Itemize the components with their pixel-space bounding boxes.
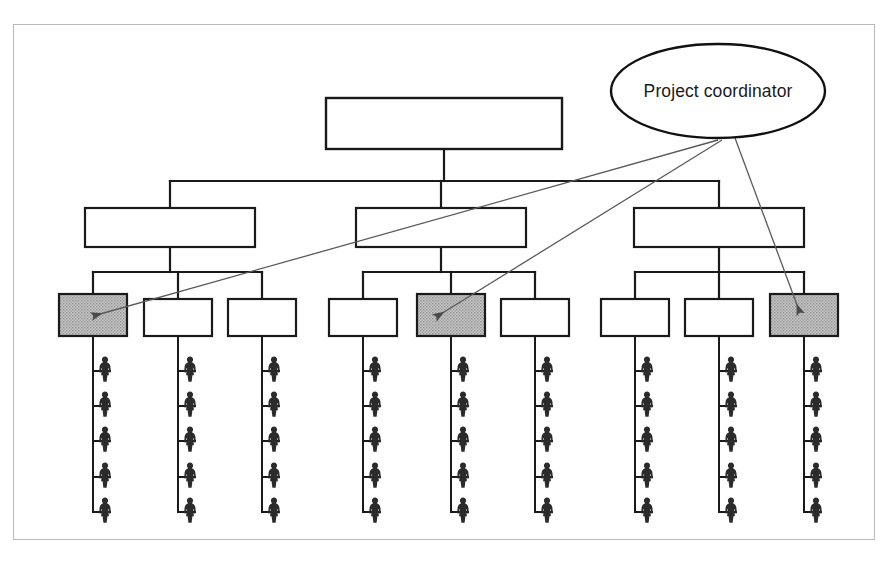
node-n3-2[interactable] bbox=[144, 299, 212, 336]
person-icon bbox=[641, 357, 653, 382]
person-icon bbox=[641, 392, 653, 417]
person-icon bbox=[268, 427, 280, 452]
node-n3-7[interactable] bbox=[601, 299, 669, 336]
person-icon bbox=[268, 463, 280, 488]
person-icon bbox=[184, 392, 196, 417]
staff-column-n3-2 bbox=[178, 336, 195, 512]
node-n3-1[interactable] bbox=[59, 294, 127, 336]
person-icon bbox=[457, 357, 469, 382]
person-icon bbox=[99, 427, 111, 452]
person-icon bbox=[457, 392, 469, 417]
staff-column-n3-6 bbox=[535, 336, 552, 512]
staff-column-n3-9 bbox=[804, 336, 821, 512]
staff-columns bbox=[93, 336, 821, 512]
person-icon bbox=[725, 427, 737, 452]
person-icon bbox=[268, 357, 280, 382]
person-icon bbox=[541, 463, 553, 488]
node-n3-3[interactable] bbox=[228, 299, 296, 336]
person-icon bbox=[99, 392, 111, 417]
staff-column-n3-1 bbox=[93, 336, 110, 512]
person-icon bbox=[369, 427, 381, 452]
person-icon bbox=[184, 463, 196, 488]
person-icon bbox=[184, 357, 196, 382]
person-icon bbox=[184, 498, 196, 523]
staff-column-n3-4 bbox=[363, 336, 380, 512]
connector-level1-to-level2 bbox=[170, 149, 719, 208]
person-icon bbox=[541, 357, 553, 382]
person-icon bbox=[641, 463, 653, 488]
person-icon bbox=[810, 427, 822, 452]
node-n2-3[interactable] bbox=[634, 208, 804, 247]
project-coordinator-ellipse[interactable] bbox=[611, 44, 825, 138]
person-icon bbox=[99, 498, 111, 523]
staff-column-n3-5 bbox=[451, 336, 468, 512]
person-icon bbox=[810, 392, 822, 417]
node-n3-5[interactable] bbox=[417, 294, 485, 336]
person-icon bbox=[725, 357, 737, 382]
person-icon bbox=[369, 463, 381, 488]
person-icon bbox=[457, 463, 469, 488]
person-icon bbox=[810, 357, 822, 382]
person-icon bbox=[810, 498, 822, 523]
staff-column-n3-8 bbox=[719, 336, 736, 512]
node-n3-9[interactable] bbox=[770, 294, 838, 336]
node-n3-6[interactable] bbox=[501, 299, 569, 336]
person-icon bbox=[641, 498, 653, 523]
person-icon bbox=[369, 392, 381, 417]
node-n1-1[interactable] bbox=[326, 98, 562, 149]
node-n3-4[interactable] bbox=[329, 299, 397, 336]
node-n3-8[interactable] bbox=[685, 299, 753, 336]
person-icon bbox=[541, 498, 553, 523]
diagram-canvas bbox=[0, 0, 889, 579]
staff-column-n3-3 bbox=[262, 336, 279, 512]
page-root: Project coordinator bbox=[0, 0, 889, 579]
person-icon bbox=[369, 498, 381, 523]
node-n2-2[interactable] bbox=[356, 208, 526, 247]
person-icon bbox=[99, 357, 111, 382]
person-icon bbox=[369, 357, 381, 382]
person-icons bbox=[99, 357, 822, 523]
person-icon bbox=[541, 427, 553, 452]
person-icon bbox=[725, 392, 737, 417]
person-icon bbox=[641, 427, 653, 452]
person-icon bbox=[184, 427, 196, 452]
person-icon bbox=[725, 498, 737, 523]
person-icon bbox=[541, 392, 553, 417]
person-icon bbox=[457, 498, 469, 523]
staff-column-n3-7 bbox=[635, 336, 652, 512]
person-icon bbox=[99, 463, 111, 488]
person-icon bbox=[457, 427, 469, 452]
connector-level2-to-level3 bbox=[93, 247, 804, 299]
person-icon bbox=[268, 392, 280, 417]
person-icon bbox=[268, 498, 280, 523]
person-icon bbox=[725, 463, 737, 488]
person-icon bbox=[810, 463, 822, 488]
node-n2-1[interactable] bbox=[85, 208, 255, 247]
